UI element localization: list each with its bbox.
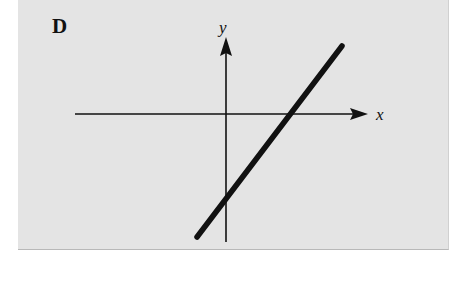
y-axis-label: y	[217, 18, 227, 37]
graph: y x	[0, 0, 460, 285]
plotted-line	[197, 46, 342, 237]
x-axis-label: x	[375, 105, 384, 124]
